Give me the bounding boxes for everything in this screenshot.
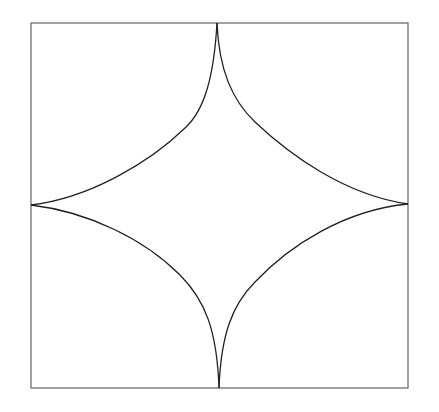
arc-bottom-left	[31, 205, 219, 388]
arc-top-left	[31, 23, 217, 205]
square-frame	[31, 23, 408, 388]
arc-top-right	[217, 23, 408, 204]
arc-bottom-right	[219, 204, 408, 388]
diagram-canvas	[0, 0, 439, 412]
